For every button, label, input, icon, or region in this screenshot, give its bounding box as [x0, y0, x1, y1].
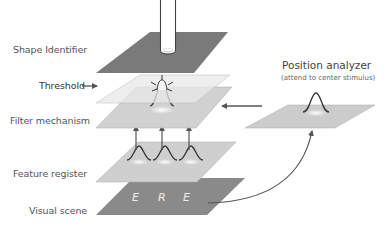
label-filter-mechanism: Filter mechanism — [10, 115, 90, 126]
visual-scene-plane: E R E — [96, 178, 245, 215]
feature-register-plane — [96, 142, 236, 182]
probe-tube-icon — [161, 0, 176, 54]
label-shape-identifier: Shape Identifier — [13, 44, 87, 55]
position-analyzer-subtitle: (attend to center stimulus) — [281, 74, 375, 82]
position-analyzer-plane — [245, 93, 375, 128]
label-feature-register: Feature register — [13, 168, 87, 179]
position-analyzer-title: Position analyzer — [282, 59, 371, 71]
shape-identifier-plane — [96, 0, 228, 73]
label-visual-scene: Visual scene — [29, 205, 87, 216]
letter-e-right: E — [183, 191, 190, 204]
label-threshold: Threshold — [39, 80, 85, 91]
letter-e-left: E — [132, 191, 139, 204]
letter-r: R — [158, 191, 166, 204]
